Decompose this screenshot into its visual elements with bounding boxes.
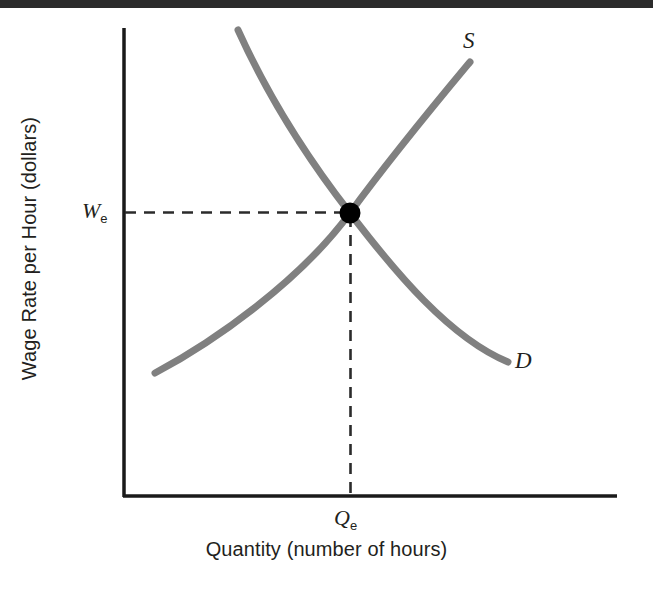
equilibrium-quantity-label: Qe <box>334 505 357 533</box>
demand-curve-label: D <box>515 348 532 374</box>
supply-curve <box>155 62 470 373</box>
equilibrium-quantity-subscript: e <box>350 518 357 533</box>
x-axis-title: Quantity (number of hours) <box>0 538 653 561</box>
equilibrium-quantity-symbol: Q <box>334 505 350 530</box>
equilibrium-wage-label: We <box>82 198 108 226</box>
supply-curve-label: S <box>463 28 475 54</box>
plot-canvas <box>0 0 653 595</box>
equilibrium-wage-subscript: e <box>100 211 107 226</box>
equilibrium-wage-symbol: W <box>82 198 100 223</box>
equilibrium-point-marker <box>340 203 361 224</box>
supply-demand-figure: S D We Qe Quantity (number of hours) Wag… <box>0 0 653 595</box>
y-axis-title-wrapper: Wage Rate per Hour (dollars) <box>0 0 60 497</box>
y-axis-title: Wage Rate per Hour (dollars) <box>19 117 42 380</box>
demand-curve <box>238 30 508 362</box>
